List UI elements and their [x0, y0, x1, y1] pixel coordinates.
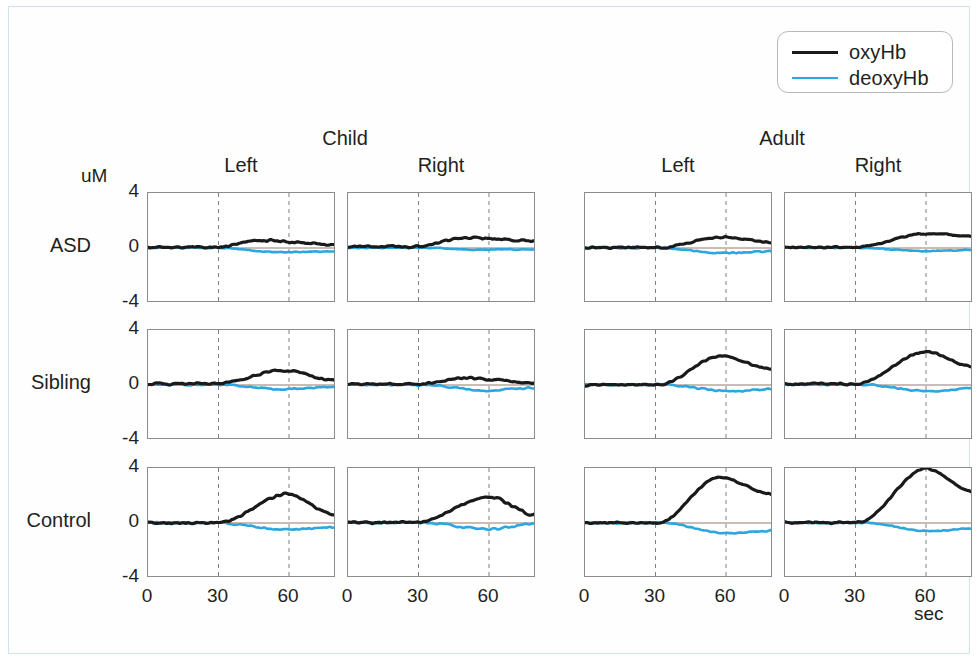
y-axis-tick-sibling-4: 4	[105, 317, 139, 339]
plot-panel-asd-adult-left	[584, 192, 772, 302]
row-label-control: Control	[19, 509, 91, 532]
plot-panel-sibling-child-right	[347, 329, 535, 439]
y-axis-tick-control-4: 4	[105, 455, 139, 477]
y-axis-tick-control-0: 0	[105, 510, 139, 532]
column-label-adult-left: Left	[618, 154, 738, 177]
x-axis-tick-child-right-0: 0	[330, 585, 364, 607]
y-axis-unit-label: uM	[81, 165, 107, 187]
legend: oxyHb deoxyHb	[777, 31, 953, 93]
series-line-oxyhb	[785, 468, 972, 524]
series-line-oxyhb	[348, 497, 535, 524]
y-axis-tick-sibling-neg4: -4	[105, 427, 139, 449]
x-axis-tick-adult-right-60: 60	[908, 585, 942, 607]
plot-panel-asd-child-right	[347, 192, 535, 302]
column-label-child-right: Right	[381, 154, 501, 177]
series-line-oxyhb	[148, 240, 335, 248]
plot-panel-control-adult-left	[584, 467, 772, 577]
legend-item-deoxyhb: deoxyHb	[792, 65, 952, 91]
row-label-sibling: Sibling	[19, 371, 91, 394]
x-axis-tick-adult-right-0: 0	[767, 585, 801, 607]
row-label-asd: ASD	[19, 234, 91, 257]
plot-panel-control-child-left	[147, 467, 335, 577]
series-line-oxyhb	[585, 477, 772, 523]
series-line-oxyhb	[785, 352, 972, 385]
series-line-oxyhb	[348, 237, 535, 248]
y-axis-tick-asd-4: 4	[105, 180, 139, 202]
plot-panel-control-adult-right	[784, 467, 972, 577]
y-axis-tick-asd-0: 0	[105, 235, 139, 257]
x-axis-tick-adult-left-30: 30	[638, 585, 672, 607]
y-axis-tick-sibling-0: 0	[105, 372, 139, 394]
series-line-oxyhb	[585, 356, 772, 386]
series-line-oxyhb	[348, 377, 535, 385]
plot-panel-asd-adult-right	[784, 192, 972, 302]
series-line-oxyhb	[148, 493, 335, 524]
y-axis-tick-control-neg4: -4	[105, 565, 139, 587]
legend-swatch-oxyhb	[792, 51, 838, 54]
series-line-oxyhb	[585, 237, 772, 249]
plot-panel-control-child-right	[347, 467, 535, 577]
legend-label-deoxyhb: deoxyHb	[849, 68, 929, 88]
y-axis-tick-asd-neg4: -4	[105, 290, 139, 312]
x-axis-tick-adult-left-60: 60	[708, 585, 742, 607]
group-label-adult: Adult	[712, 127, 852, 150]
legend-item-oxyhb: oxyHb	[792, 39, 952, 65]
plot-panel-sibling-child-left	[147, 329, 335, 439]
plot-panel-sibling-adult-left	[584, 329, 772, 439]
x-axis-tick-adult-left-0: 0	[567, 585, 601, 607]
legend-label-oxyhb: oxyHb	[849, 42, 906, 62]
x-axis-tick-child-right-60: 60	[471, 585, 505, 607]
series-line-oxyhb	[148, 370, 335, 385]
column-label-child-left: Left	[181, 154, 301, 177]
series-line-oxyhb	[785, 234, 972, 248]
x-axis-tick-child-left-60: 60	[271, 585, 305, 607]
plot-panel-asd-child-left	[147, 192, 335, 302]
legend-swatch-deoxyhb	[792, 77, 838, 79]
x-axis-tick-child-left-30: 30	[201, 585, 235, 607]
x-axis-tick-child-right-30: 30	[401, 585, 435, 607]
x-axis-tick-adult-right-30: 30	[838, 585, 872, 607]
x-axis-tick-child-left-0: 0	[130, 585, 164, 607]
plot-panel-sibling-adult-right	[784, 329, 972, 439]
figure-frame: oxyHb deoxyHb Child Adult Left Right Lef…	[8, 6, 970, 654]
group-label-child: Child	[275, 127, 415, 150]
column-label-adult-right: Right	[818, 154, 938, 177]
